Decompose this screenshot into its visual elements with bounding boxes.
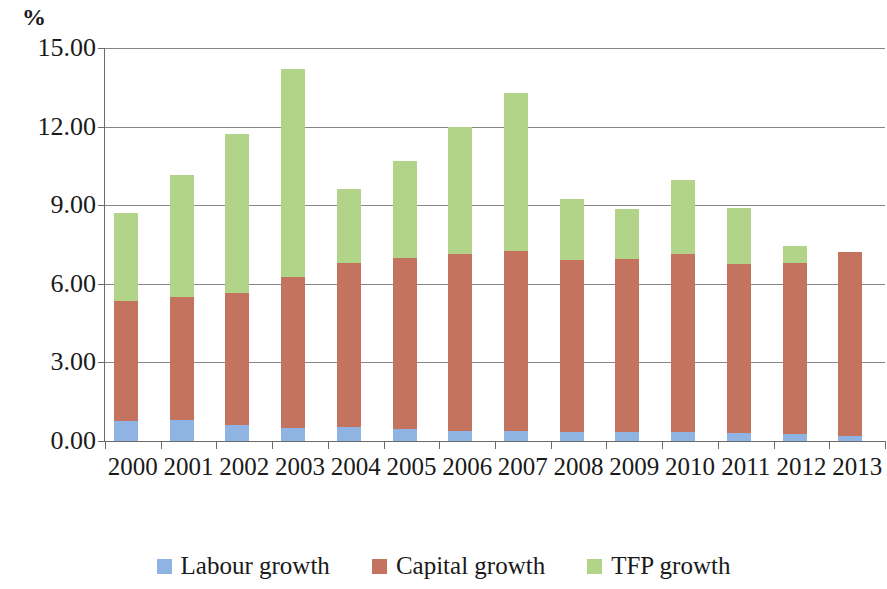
x-axis-tick	[439, 442, 440, 449]
y-axis-labels: 15.0012.009.006.003.000.00	[0, 48, 96, 441]
x-axis-tick	[328, 442, 329, 449]
bar-segment	[560, 199, 584, 261]
bar-segment	[727, 264, 751, 433]
bars-layer	[105, 48, 885, 441]
bar-segment	[727, 433, 751, 441]
x-axis-tick-label: 2004	[328, 452, 384, 482]
bar-segment	[671, 254, 695, 432]
bar-segment	[393, 258, 417, 430]
plot-area	[105, 48, 885, 441]
x-axis-tick	[774, 442, 775, 449]
bar-segment	[170, 297, 194, 420]
legend-swatch-icon	[372, 559, 387, 574]
x-axis-tick-label: 2013	[829, 452, 885, 482]
x-axis-tick-label: 2011	[718, 452, 774, 482]
bar-segment	[783, 263, 807, 435]
x-axis-tick	[829, 442, 830, 449]
bar-segment	[504, 93, 528, 252]
y-axis-tick	[98, 362, 105, 363]
y-axis-tick-label: 15.00	[38, 35, 97, 61]
bar-segment	[170, 420, 194, 441]
bar-segment	[783, 246, 807, 263]
x-axis-tick-label: 2010	[662, 452, 718, 482]
bar-segment	[393, 429, 417, 441]
x-axis-tick	[384, 442, 385, 449]
y-axis-tick-label: 3.00	[51, 349, 97, 375]
y-axis-tick-label: 0.00	[51, 428, 97, 454]
x-axis-tick-label: 2007	[495, 452, 551, 482]
bar-segment	[504, 431, 528, 441]
bar-segment	[448, 254, 472, 431]
bar-segment	[170, 175, 194, 297]
bar-segment	[337, 263, 361, 427]
x-axis-tick-label: 2002	[216, 452, 272, 482]
x-axis-tick-label: 2009	[606, 452, 662, 482]
y-axis-tick	[98, 127, 105, 128]
x-axis-tick-label: 2000	[105, 452, 161, 482]
legend-item-capital: Capital growth	[372, 552, 545, 580]
bar-segment	[337, 427, 361, 441]
bar-segment	[281, 69, 305, 277]
x-axis-tick	[495, 442, 496, 449]
y-axis-unit-label: %	[22, 2, 46, 32]
legend-label: TFP growth	[611, 552, 730, 580]
bar-segment	[281, 277, 305, 428]
bar-segment	[727, 208, 751, 264]
bar-segment	[225, 134, 249, 293]
y-axis-tick	[98, 205, 105, 206]
bar-segment	[225, 425, 249, 441]
bar-segment	[114, 301, 138, 421]
y-axis-tick-label: 9.00	[51, 192, 97, 218]
stacked-bar-chart: % 15.0012.009.006.003.000.00 20002001200…	[0, 0, 887, 589]
bar-segment	[560, 432, 584, 441]
bar-segment	[560, 260, 584, 432]
chart-legend: Labour growthCapital growthTFP growth	[0, 552, 887, 580]
x-axis-tick-label: 2012	[774, 452, 830, 482]
x-axis-tick	[606, 442, 607, 449]
x-axis-tick	[105, 442, 106, 449]
y-axis-tick-label: 6.00	[51, 271, 97, 297]
x-axis-tick-label: 2005	[384, 452, 440, 482]
x-axis-tick	[216, 442, 217, 449]
bar-segment	[114, 421, 138, 441]
bar-segment	[615, 259, 639, 432]
y-axis-tick	[98, 284, 105, 285]
x-axis-tick	[551, 442, 552, 449]
bar-segment	[448, 431, 472, 441]
x-axis-tick	[161, 442, 162, 449]
legend-item-tfp: TFP growth	[587, 552, 730, 580]
x-axis-tick	[718, 442, 719, 449]
y-axis-tick-label: 12.00	[38, 114, 97, 140]
x-axis-tick-label: 2006	[439, 452, 495, 482]
legend-item-labour: Labour growth	[157, 552, 330, 580]
bar-segment	[671, 432, 695, 441]
legend-label: Capital growth	[396, 552, 545, 580]
y-axis-tick	[98, 48, 105, 49]
x-axis-tick	[272, 442, 273, 449]
bar-segment	[393, 161, 417, 258]
bar-segment	[615, 432, 639, 441]
legend-label: Labour growth	[181, 552, 330, 580]
x-axis-tick	[885, 442, 886, 449]
legend-swatch-icon	[587, 559, 602, 574]
bar-segment	[448, 127, 472, 254]
bar-segment	[337, 189, 361, 262]
x-axis-tick	[662, 442, 663, 449]
bar-segment	[281, 428, 305, 441]
bar-segment	[114, 213, 138, 301]
bar-segment	[504, 251, 528, 430]
x-axis-tick-label: 2008	[551, 452, 607, 482]
bar-segment	[671, 180, 695, 253]
bar-segment	[615, 209, 639, 259]
x-axis-tick-label: 2003	[272, 452, 328, 482]
bar-segment	[838, 252, 862, 435]
legend-swatch-icon	[157, 559, 172, 574]
x-axis-tick-label: 2001	[161, 452, 217, 482]
bar-segment	[225, 293, 249, 425]
